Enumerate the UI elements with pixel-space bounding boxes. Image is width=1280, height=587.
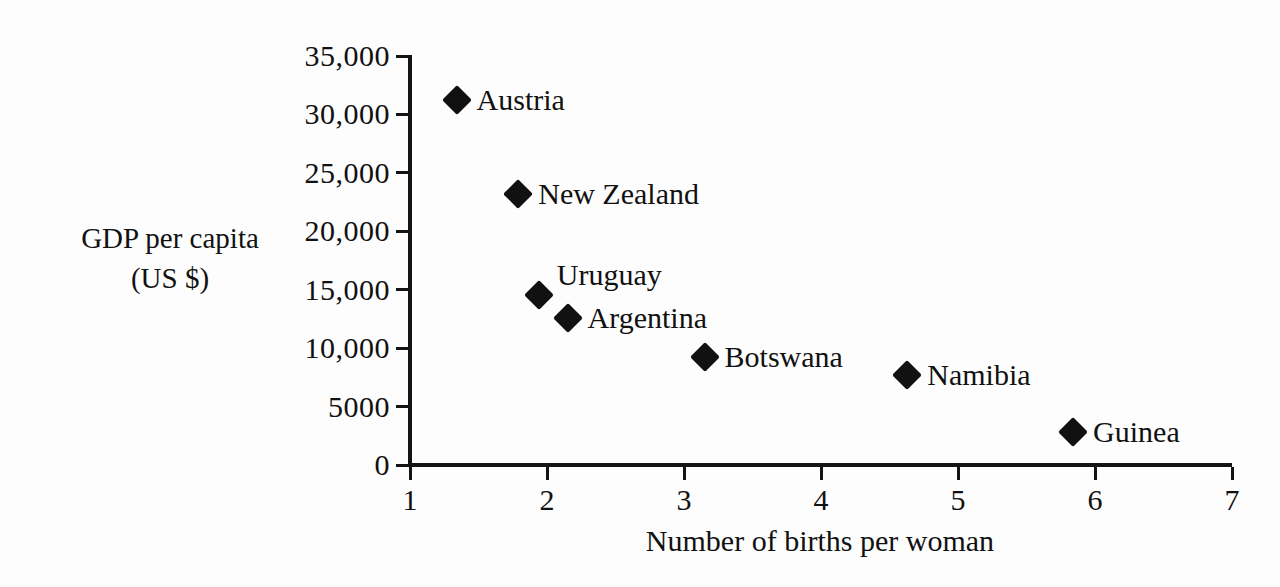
y-tick-label-wrap: 0 <box>220 450 390 480</box>
y-tick-mark <box>396 171 409 174</box>
y-axis-title-line-1: GDP per capita <box>20 218 320 258</box>
x-tick-label: 6 <box>1065 484 1125 516</box>
scatter-plot-figure: 0500010,00015,00020,00025,00030,00035,00… <box>0 0 1280 587</box>
y-tick-label: 25,000 <box>230 158 390 188</box>
data-point-marker[interactable] <box>503 179 533 209</box>
y-tick-mark <box>396 55 409 58</box>
x-tick-mark <box>409 467 412 480</box>
data-point-marker[interactable] <box>442 86 472 116</box>
data-point-label: Namibia <box>927 360 1030 390</box>
data-point-label: Argentina <box>588 303 707 333</box>
y-tick-label: 35,000 <box>230 41 390 71</box>
x-tick-label: 4 <box>791 484 851 516</box>
data-point-marker[interactable] <box>524 280 554 310</box>
y-tick-label-wrap: 25,000 <box>220 158 390 188</box>
x-tick-mark <box>820 467 823 480</box>
x-tick-label: 2 <box>517 484 577 516</box>
y-tick-mark <box>396 405 409 408</box>
y-tick-mark <box>396 464 409 467</box>
data-point-label: Uruguay <box>557 260 662 290</box>
data-point-label: Austria <box>477 85 565 115</box>
data-point-label: New Zealand <box>538 179 699 209</box>
y-tick-mark <box>396 347 409 350</box>
y-tick-label-wrap: 5000 <box>220 392 390 422</box>
x-tick-mark <box>957 467 960 480</box>
y-tick-label: 10,000 <box>230 333 390 363</box>
y-tick-label-wrap: 10,000 <box>220 333 390 363</box>
x-tick-label: 1 <box>380 484 440 516</box>
y-tick-label: 30,000 <box>230 99 390 129</box>
y-axis-title-line-2: (US $) <box>20 258 320 298</box>
x-tick-mark <box>1231 467 1234 480</box>
x-tick-mark <box>683 467 686 480</box>
x-axis-title: Number of births per woman <box>408 524 1232 558</box>
x-tick-mark <box>1094 467 1097 480</box>
data-point-marker[interactable] <box>1058 417 1088 447</box>
x-tick-label: 3 <box>654 484 714 516</box>
y-tick-mark <box>396 113 409 116</box>
data-point-marker[interactable] <box>892 360 922 390</box>
x-tick-label: 5 <box>928 484 988 516</box>
y-tick-label: 5000 <box>230 392 390 422</box>
data-point-marker[interactable] <box>690 342 720 372</box>
y-tick-label-wrap: 35,000 <box>220 41 390 71</box>
y-tick-label: 0 <box>230 450 390 480</box>
data-point-label: Botswana <box>725 342 843 372</box>
y-tick-mark <box>396 230 409 233</box>
x-tick-label: 7 <box>1202 484 1262 516</box>
y-tick-mark <box>396 288 409 291</box>
data-point-label: Guinea <box>1093 417 1180 447</box>
y-tick-label-wrap: 30,000 <box>220 99 390 129</box>
y-axis-title: GDP per capita (US $) <box>20 218 320 298</box>
x-tick-mark <box>546 467 549 480</box>
data-point-marker[interactable] <box>553 303 583 333</box>
